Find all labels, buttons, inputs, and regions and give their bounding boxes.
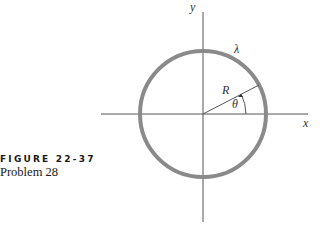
figure-number: FIGURE 22-37 — [0, 153, 96, 165]
radius-line — [203, 85, 259, 114]
figure-caption: FIGURE 22-37 Problem 28 — [0, 153, 96, 180]
x-axis-label: x — [303, 116, 308, 131]
ring-diagram — [0, 0, 322, 231]
y-axis-label: y — [190, 0, 195, 15]
theta-label: θ — [232, 97, 238, 112]
figure-subtitle: Problem 28 — [0, 165, 96, 180]
lambda-label: λ — [234, 42, 239, 57]
radius-label: R — [222, 83, 229, 98]
